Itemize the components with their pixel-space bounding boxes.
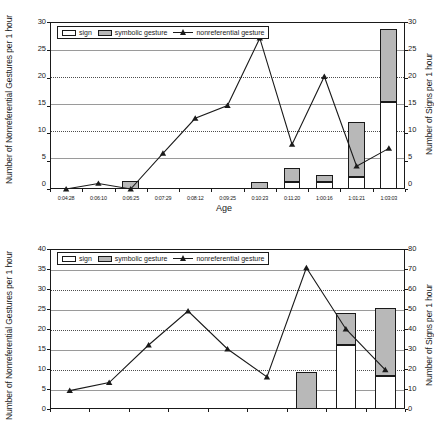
nonreferential-gesture-line-marker-icon [173,255,193,262]
chart-bottom-legend-label-nonreferential: nonreferential gesture [196,255,264,262]
figure-page: Number of Nonreferential Gestures per 1 … [0,0,448,435]
data-point-marker [224,102,230,107]
chart-bottom-legend: sign symbolic gesture nonreferential ges… [57,252,269,265]
chart-top-legend: sign symbolic gesture nonreferential ges… [57,26,269,39]
chart-top-legend-label-symbolic: symbolic gesture [115,29,168,36]
sign-swatch-icon [62,256,76,262]
nonreferential-gesture-line-marker-icon [173,29,193,36]
data-point-marker [289,141,295,146]
symbolic-gesture-swatch-icon [98,30,112,36]
sign-swatch-icon [62,30,76,36]
chart-bottom-legend-label-symbolic: symbolic gesture [115,255,168,262]
data-point-marker [185,308,191,313]
chart-bottom-legend-item-nonreferential: nonreferential gesture [173,255,264,262]
chart-bottom-line-series [0,218,448,435]
data-point-marker [353,163,359,168]
nonreferential-gesture-polyline [70,268,386,391]
chart-top-legend-item-symbolic: symbolic gesture [98,29,168,36]
data-point-marker [95,180,101,185]
data-point-marker [303,265,309,270]
chart-top-legend-item-nonreferential: nonreferential gesture [173,29,264,36]
chart-bottom-legend-item-sign: sign [62,255,92,262]
chart-bottom: Number of Nonreferential Gestures per 1 … [0,218,448,435]
chart-bottom-legend-label-sign: sign [79,255,92,262]
chart-bottom-legend-item-symbolic: symbolic gesture [98,255,168,262]
data-point-marker [343,326,349,331]
data-point-marker [386,145,392,150]
chart-top-legend-label-nonreferential: nonreferential gesture [196,29,264,36]
chart-top-legend-item-sign: sign [62,29,92,36]
chart-top-legend-label-sign: sign [79,29,92,36]
data-point-marker [321,74,327,79]
nonreferential-gesture-polyline [66,38,389,189]
chart-top: Number of Nonreferential Gestures per 1 … [0,0,448,218]
symbolic-gesture-swatch-icon [98,256,112,262]
